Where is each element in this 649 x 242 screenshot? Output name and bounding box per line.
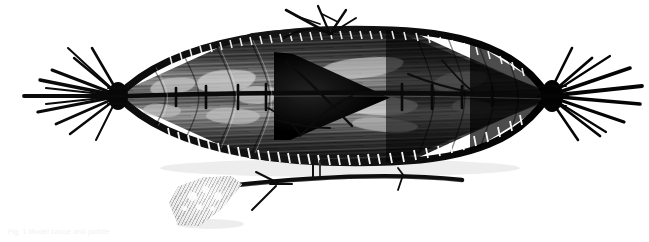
blade-spot-6 bbox=[182, 206, 187, 211]
paddle-blade bbox=[166, 176, 242, 228]
blade-spot-3 bbox=[214, 192, 222, 200]
blade-spot-1 bbox=[188, 192, 197, 201]
figure-caption: Fig. 1 Model canoe and paddle bbox=[8, 228, 110, 235]
paddle bbox=[0, 0, 649, 242]
blade-spot-2 bbox=[202, 186, 209, 193]
blade-spot-4 bbox=[196, 204, 202, 210]
photograph-canvas: Fig. 1 Model canoe and paddle bbox=[0, 0, 649, 242]
blade-spot-5 bbox=[210, 206, 215, 211]
